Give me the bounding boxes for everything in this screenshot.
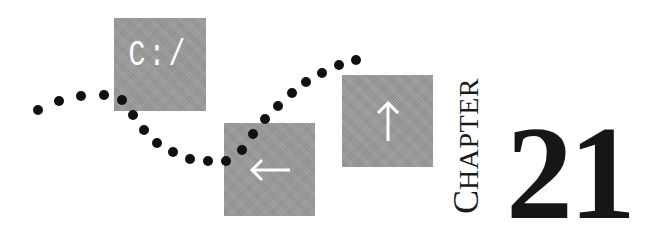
chapter-number: 21 [506, 106, 632, 234]
drive-path-box: C:/ [114, 18, 206, 111]
drive-path-label: C:/ [128, 35, 188, 76]
chapter-label-rest: HAPTER [453, 78, 484, 190]
chapter-label: CHAPTER [448, 78, 484, 214]
chapter-label-initial: C [446, 190, 486, 214]
arrow-left-box [224, 123, 315, 216]
arrow-up-icon [375, 99, 401, 143]
arrow-up-box [342, 75, 433, 167]
arrow-left-icon [248, 157, 292, 183]
